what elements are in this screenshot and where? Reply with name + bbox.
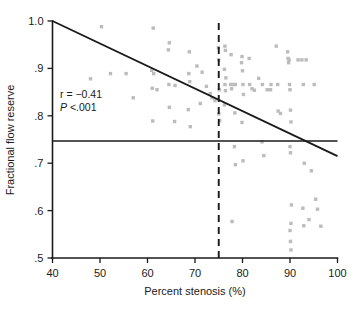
- data-point: [310, 169, 313, 172]
- data-point: [269, 83, 272, 86]
- data-point: [151, 119, 154, 122]
- data-point: [200, 70, 203, 73]
- data-point: [261, 83, 264, 86]
- x-tick-label: 100: [328, 267, 346, 279]
- data-point: [289, 248, 292, 251]
- chart-canvas: .5.6.7.8.91.0 405060708090100 Percent st…: [0, 0, 355, 313]
- data-point: [307, 218, 310, 221]
- data-point: [288, 88, 291, 91]
- data-point: [188, 50, 191, 53]
- data-point: [124, 72, 127, 75]
- data-point: [189, 125, 192, 128]
- data-point: [89, 77, 92, 80]
- reference-lines-group: [53, 21, 338, 258]
- data-point: [187, 72, 190, 75]
- data-point: [262, 154, 265, 157]
- data-point: [240, 121, 243, 124]
- axes-group: [52, 21, 338, 259]
- y-axis-ticks: .5.6.7.8.91.0: [28, 15, 52, 264]
- data-point: [188, 80, 191, 83]
- y-tick-label: .7: [34, 157, 43, 169]
- data-point: [195, 64, 198, 67]
- data-point: [253, 89, 256, 92]
- data-point: [302, 83, 305, 86]
- data-point: [314, 198, 317, 201]
- data-point: [199, 102, 202, 105]
- data-point: [276, 83, 279, 86]
- data-point: [224, 89, 227, 92]
- pvalue-symbol: P: [60, 101, 67, 113]
- x-axis-title: Percent stenosis (%): [144, 285, 245, 297]
- data-point: [286, 50, 289, 53]
- data-point: [300, 58, 303, 61]
- data-point: [168, 106, 171, 109]
- data-point: [223, 44, 226, 47]
- data-point: [241, 159, 244, 162]
- data-point: [289, 240, 292, 243]
- data-point: [279, 112, 282, 115]
- data-point: [288, 145, 291, 148]
- data-point: [241, 69, 244, 72]
- data-point: [224, 76, 227, 79]
- data-point: [288, 83, 291, 86]
- data-point: [290, 203, 293, 206]
- y-axis-title: Fractional flow reserve: [4, 85, 16, 196]
- data-point: [132, 96, 135, 99]
- data-point: [296, 58, 299, 61]
- x-axis-ticks: 405060708090100: [46, 258, 346, 279]
- data-point: [173, 120, 176, 123]
- data-point: [233, 111, 236, 114]
- data-point: [224, 49, 227, 52]
- scatter-plot-figure: .5.6.7.8.91.0 405060708090100 Percent st…: [0, 0, 355, 313]
- data-point: [248, 83, 251, 86]
- data-point: [240, 55, 243, 58]
- data-point: [152, 26, 155, 29]
- y-tick-label: .5: [34, 252, 43, 264]
- data-points-group: [89, 25, 323, 252]
- x-tick-label: 40: [46, 267, 58, 279]
- data-point: [257, 77, 260, 80]
- data-point: [223, 83, 226, 86]
- x-tick-label: 90: [284, 267, 296, 279]
- data-point: [233, 145, 236, 148]
- pvalue-value: <.001: [67, 101, 97, 113]
- data-point: [241, 83, 244, 86]
- data-point: [289, 108, 292, 111]
- data-point: [187, 108, 190, 111]
- data-point: [302, 224, 305, 227]
- data-point: [230, 87, 233, 90]
- data-point: [275, 44, 278, 47]
- pvalue-annotation: P <.001: [60, 101, 97, 113]
- data-point: [247, 57, 250, 60]
- data-point: [304, 58, 307, 61]
- data-point: [319, 225, 322, 228]
- data-point: [167, 48, 170, 51]
- data-point: [289, 120, 292, 123]
- data-point: [230, 220, 233, 223]
- x-tick-label: 80: [236, 267, 248, 279]
- data-point: [109, 72, 112, 75]
- data-point: [301, 207, 304, 210]
- y-tick-label: .9: [34, 62, 43, 74]
- data-point: [266, 88, 269, 91]
- data-point: [316, 207, 319, 210]
- data-point: [242, 93, 245, 96]
- data-point: [223, 68, 226, 71]
- data-point: [151, 87, 154, 90]
- data-point: [288, 229, 291, 232]
- data-point: [234, 83, 237, 86]
- x-tick-label: 50: [94, 267, 106, 279]
- data-point: [303, 162, 306, 165]
- y-tick-label: 1.0: [28, 15, 43, 27]
- data-point: [100, 25, 103, 28]
- data-point: [173, 84, 176, 87]
- data-point: [167, 83, 170, 86]
- data-point: [289, 222, 292, 225]
- y-tick-label: .8: [34, 110, 43, 122]
- data-point: [152, 72, 155, 75]
- x-tick-label: 60: [141, 267, 153, 279]
- data-point: [205, 85, 208, 88]
- data-point: [234, 163, 237, 166]
- data-point: [289, 151, 292, 154]
- data-point: [168, 41, 171, 44]
